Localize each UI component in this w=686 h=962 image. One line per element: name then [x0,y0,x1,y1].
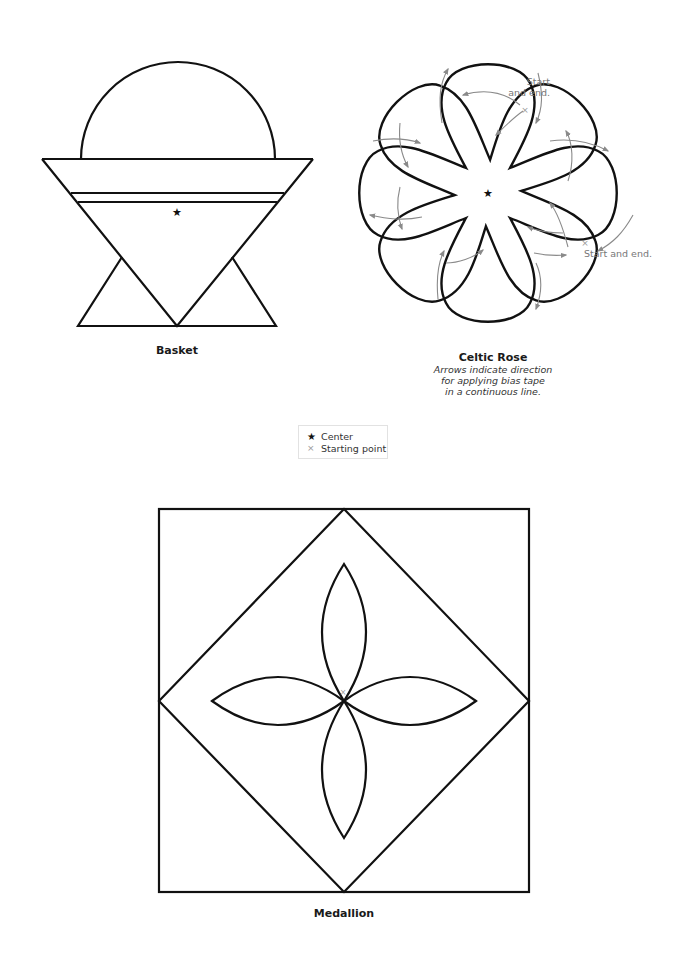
medallion-petal-top [322,564,366,701]
celtic-rose-diagram: × × ★ [306,11,670,375]
basket-handle [81,62,275,159]
cross-icon: × [307,443,321,453]
star-icon: ★ [307,431,321,442]
rose-start-cross-icon-top: × [521,105,529,115]
celtic-rose-caption: Celtic Rose Arrows indicate direction fo… [418,351,568,397]
legend-item-starting-point: × Starting point [307,442,387,454]
legend-label-center: Center [321,431,353,442]
celtic-rose-title: Celtic Rose [418,351,568,364]
medallion-petal-bottom [322,701,366,838]
basket-caption: Basket [117,344,237,357]
basket-diagram [42,62,313,326]
medallion-petal-left [212,677,344,725]
legend: ★ Center × Starting point [298,425,388,459]
medallion-diagram [159,509,529,892]
medallion-caption: Medallion [284,907,404,920]
rose-center-star-icon: ★ [483,187,493,200]
legend-item-center: ★ Center [307,430,387,442]
basket-left-foot [78,257,177,326]
medallion-start-cross-icon: × [340,688,347,697]
rose-right-start-note: Start and end. [584,248,684,259]
basket-body [42,159,313,326]
rose-top-start-note-line-2: and end. [490,87,550,98]
rose-top-start-note: Start and end. [490,76,550,98]
rose-start-cross-icon-right: × [581,238,589,248]
direction-arrows [370,69,633,309]
celtic-rose-subtitle-line-2: for applying bias tape [418,375,568,386]
basket-right-foot [177,257,276,326]
medallion-petal-right [344,677,476,725]
medallion-title: Medallion [284,907,404,920]
celtic-rose-subtitle-line-3: in a continuous line. [418,386,568,397]
basket-center-star-icon: ★ [172,206,182,219]
basket-title: Basket [117,344,237,357]
diagram-canvas: ★ [0,0,686,962]
rose-top-start-note-line-1: Start [490,76,550,87]
celtic-rose-subtitle-line-1: Arrows indicate direction [418,364,568,375]
legend-label-starting-point: Starting point [321,443,386,454]
